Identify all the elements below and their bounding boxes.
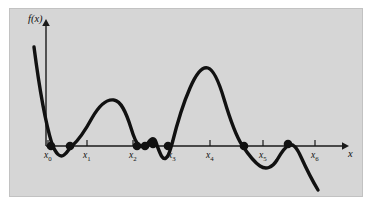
marker-dot-root-near-x3 [164, 142, 173, 151]
tick-label-x2: x2 [128, 150, 137, 162]
function-plot-svg: x0x1x2x3x4x5x6 f(x) x [0, 0, 372, 205]
tick-label-x0: x0 [43, 150, 52, 162]
marker-dot-local-max-touch-right [284, 140, 293, 149]
marker-dot-root-near-x0 [47, 142, 56, 151]
x-axis-label: x [347, 148, 353, 159]
tick-label-x5: x5 [258, 150, 267, 162]
tick-label-subscript: 4 [210, 155, 214, 162]
tick-label-x3: x3 [167, 150, 176, 162]
figure-root: x0x1x2x3x4x5x6 f(x) x [0, 0, 372, 205]
tick-label-subscript: 5 [263, 155, 267, 162]
x-axis [46, 142, 349, 150]
tick-label-x6: x6 [310, 150, 319, 162]
marker-dot-local-min-touch-a [141, 142, 150, 151]
tick-label-subscript: 0 [48, 155, 52, 162]
tick-label-subscript: 3 [172, 155, 176, 162]
tick-label-subscript: 6 [315, 155, 319, 162]
y-axis-arrowhead [42, 19, 50, 26]
tick-mark-group [48, 140, 315, 146]
tick-label-subscript: 2 [133, 155, 137, 162]
marker-dot-root-right-of-x4 [240, 142, 249, 151]
marker-dot-group [47, 140, 293, 151]
function-curve [34, 47, 318, 190]
marker-dot-local-max-touch [149, 140, 158, 149]
tick-label-x4: x4 [205, 150, 214, 162]
y-axis-label: f(x) [28, 13, 43, 25]
marker-dot-root-left-of-x1 [66, 142, 75, 151]
tick-label-subscript: 1 [87, 155, 90, 162]
tick-label-x1: x1 [82, 150, 91, 162]
marker-dot-root-near-x2 [133, 142, 142, 151]
